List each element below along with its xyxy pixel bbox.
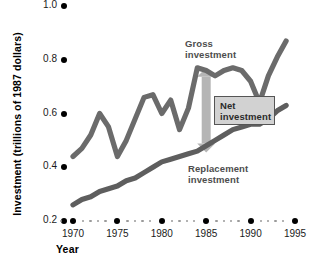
- net-investment-label-line2: investment: [220, 111, 271, 122]
- plot-area: [0, 0, 336, 266]
- net-investment-label-line1: Net: [220, 100, 236, 111]
- replacement-investment-label: Replacement investment: [188, 163, 248, 185]
- gross-investment-label-line1: Gross: [185, 38, 213, 49]
- investment-chart: Investment (trillions of 1987 dollars) Y…: [0, 0, 336, 266]
- gross-investment-label-line2: investment: [185, 49, 236, 60]
- gross-investment-label: Gross investment: [185, 38, 236, 60]
- replacement-investment-label-line1: Replacement: [188, 163, 248, 174]
- replacement-investment-label-line2: investment: [188, 174, 239, 185]
- net-investment-callout: Net investment: [214, 96, 275, 125]
